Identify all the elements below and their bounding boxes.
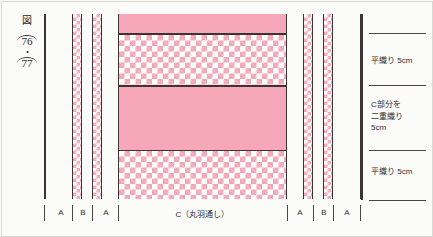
figure-page: 図 76 ・ 77 平織り 5cm C部分を 二重織り 5cm 平織り — [0, 0, 433, 237]
band-check-lower — [119, 151, 286, 199]
measurement-label-plain-weave-bottom: 平織り 5cm — [371, 166, 412, 178]
segment-label-right-a1: A — [289, 208, 311, 217]
warp-stripe-right-a — [303, 14, 313, 199]
figure-caption-mark: 図 — [14, 16, 40, 27]
segment-label-left-a2: A — [95, 208, 117, 217]
segment-label-left-b: B — [73, 208, 93, 217]
warp-stripe-right-b — [323, 14, 333, 199]
segment-tick-6 — [333, 205, 334, 221]
segment-tick-0 — [44, 205, 45, 221]
measurement-label-double-weave-c: C部分を 二重織り 5cm — [371, 99, 403, 134]
figure-caption-page-second: 77 — [14, 56, 40, 71]
measurement-tick-middle-lower — [369, 150, 426, 151]
segment-label-right-a2: A — [336, 208, 358, 217]
segment-tick-7 — [360, 205, 361, 221]
segment-label-left-a1: A — [50, 208, 72, 217]
figure-caption-separator: ・ — [14, 48, 40, 56]
band-check-upper — [119, 35, 286, 85]
band-solid-middle — [119, 87, 286, 150]
figure-caption-page-first: 76 — [14, 34, 40, 49]
measurement-spine — [361, 14, 363, 200]
measurement-label-plain-weave-top: 平織り 5cm — [371, 55, 412, 67]
weaving-draft-diagram — [44, 14, 361, 199]
warp-stripe-left-a — [92, 14, 102, 199]
segment-tick-4 — [287, 205, 288, 221]
figure-caption: 図 76 ・ 77 — [14, 16, 40, 71]
segment-tick-2 — [92, 205, 93, 221]
segment-label-right-b: B — [314, 208, 334, 217]
segment-label-center-c: C（丸羽通し） — [118, 208, 287, 219]
measurement-tick-top — [369, 33, 426, 34]
measurement-tick-middle-upper — [369, 85, 426, 86]
measurement-tick-bottom — [369, 200, 426, 201]
warp-rule-left-outer — [44, 14, 46, 199]
bottom-segment-axis: A B A C（丸羽通し） A B A — [44, 203, 361, 229]
band-solid-top — [119, 14, 286, 33]
center-panel-c — [118, 14, 287, 199]
warp-stripe-left-b — [72, 14, 82, 199]
